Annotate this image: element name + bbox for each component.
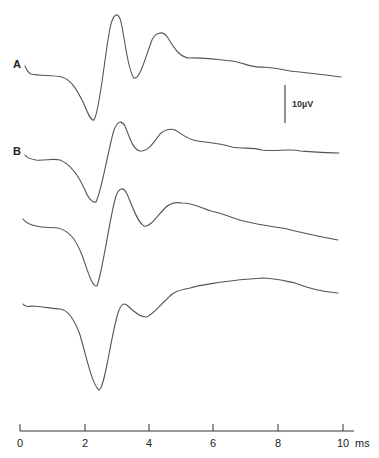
x-tick-label: 2 — [82, 437, 88, 449]
x-tick-label: 8 — [275, 437, 281, 449]
waveform-plot — [0, 0, 379, 458]
waveform-figure: A B 10µV 0 2 4 6 8 10 ms — [0, 0, 379, 458]
x-tick-label: 4 — [146, 437, 152, 449]
scale-bar-label: 10µV — [292, 99, 313, 109]
x-tick-label: 0 — [17, 437, 23, 449]
trace-3 — [23, 189, 338, 286]
trace-b — [25, 122, 339, 202]
trace-label-b: B — [13, 145, 21, 157]
trace-label-a: A — [13, 58, 21, 70]
x-tick-label: 10 — [337, 437, 349, 449]
x-axis-unit: ms — [355, 437, 370, 449]
trace-4 — [23, 278, 338, 390]
x-tick-label: 6 — [210, 437, 216, 449]
x-axis-ticks — [20, 424, 343, 431]
